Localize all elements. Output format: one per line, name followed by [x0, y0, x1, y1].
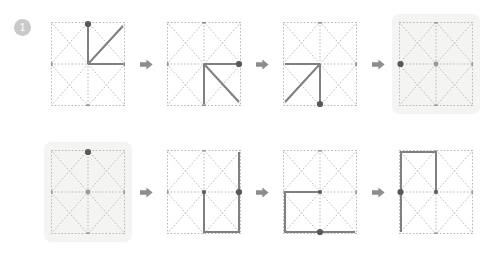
arrow-right-icon	[256, 59, 269, 70]
arrow-right-icon	[256, 187, 269, 198]
row-2-panels-strip	[44, 128, 504, 256]
arrow-right-icon	[372, 187, 385, 198]
grid-panel	[51, 150, 125, 234]
grid-panel	[167, 150, 241, 234]
arrow-cell	[364, 14, 392, 114]
grid-panel	[167, 22, 241, 106]
arrow-cell	[248, 142, 276, 242]
grid-panel	[399, 22, 473, 106]
grid-panel	[283, 22, 357, 106]
arrow-cell	[132, 14, 160, 114]
arrow-cell	[248, 14, 276, 114]
panel-row-1-answer[interactable]	[392, 14, 480, 114]
puzzle-row-1: 1	[0, 0, 504, 128]
arrow-cell	[364, 142, 392, 242]
grid-panel	[283, 150, 357, 234]
grid-panel	[51, 22, 125, 106]
panel-row-2-step-2[interactable]	[160, 142, 248, 242]
panel-row-2-answer[interactable]	[44, 142, 132, 242]
panel-row-1-step-1[interactable]	[44, 14, 132, 114]
arrow-right-icon	[140, 187, 153, 198]
arrow-cell	[132, 142, 160, 242]
panel-row-2-step-3[interactable]	[276, 142, 364, 242]
row-number-badge-1: 1	[14, 19, 31, 36]
arrow-right-icon	[372, 59, 385, 70]
panel-row-1-step-2[interactable]	[160, 14, 248, 114]
puzzle-row-2: 2	[0, 128, 504, 256]
arrow-right-icon	[140, 59, 153, 70]
panel-row-2-step-4[interactable]	[392, 142, 480, 242]
grid-panel	[399, 150, 473, 234]
rotation-puzzle-root: 1	[0, 0, 504, 256]
panel-row-1-step-3[interactable]	[276, 14, 364, 114]
row-1-panels-strip	[44, 0, 504, 128]
